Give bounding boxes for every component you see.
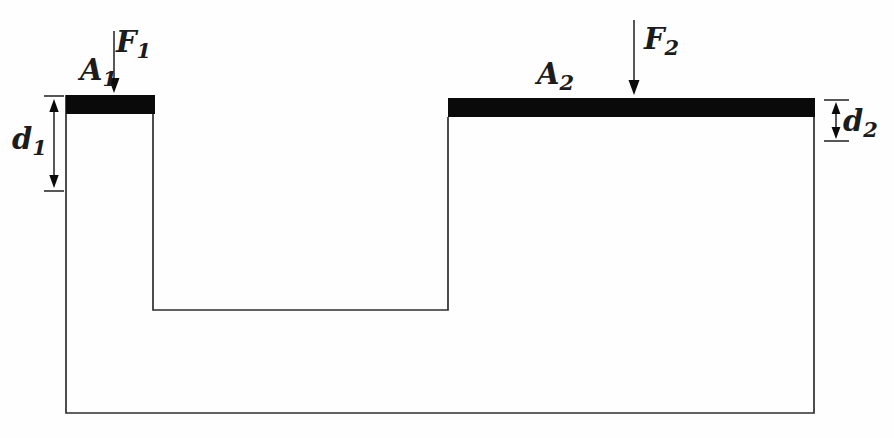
dimension-d2-down-arrowhead [832,127,841,139]
label-d1: d1 [12,122,47,160]
label-d1-subscript: 1 [32,135,47,160]
label-d2-subscript: 2 [862,117,878,142]
label-f2-subscript: 2 [664,35,680,60]
dimension-d1-up-arrowhead [49,99,58,112]
label-a1: A1 [77,53,117,91]
hydraulic-lift-diagram: F1 A1 d1 F2 A2 d2 [0,0,894,438]
force-arrow-f2-head [629,80,640,95]
label-f2-letter: F [643,22,667,56]
label-f2: F2 [643,22,679,60]
piston-right [448,98,815,117]
label-a1-subscript: 1 [103,66,118,91]
dimension-d1-down-arrowhead [49,175,58,188]
label-f1: F1 [115,25,151,63]
label-a2: A2 [534,57,574,95]
dimension-d2-up-arrowhead [832,102,841,114]
force-arrow-f2 [629,20,640,95]
vessel-inner-wall [153,114,448,310]
vessel-walls [66,95,814,413]
label-d2: d2 [843,104,878,142]
piston-left [66,95,155,114]
label-d2-letter: d [843,104,863,138]
label-a1-letter: A [77,53,103,87]
diagram-canvas: F1 A1 d1 F2 A2 d2 [0,0,894,438]
label-d1-letter: d [12,122,32,156]
dimension-d1 [44,96,64,191]
labels: F1 A1 d1 F2 A2 d2 [12,22,878,160]
label-f1-subscript: 1 [137,38,152,63]
label-a2-letter: A [534,57,560,91]
label-a2-subscript: 2 [559,70,575,95]
vessel-outer-wall [66,95,814,413]
label-f1-letter: F [115,25,139,59]
